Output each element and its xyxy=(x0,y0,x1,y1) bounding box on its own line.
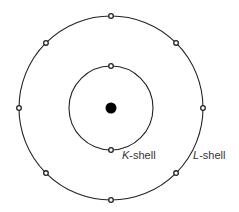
l-shell-electron xyxy=(109,14,114,19)
l-shell-label: L-shell xyxy=(193,149,225,161)
k-shell-suffix: -shell xyxy=(129,149,155,161)
nucleus xyxy=(106,103,117,114)
k-shell-label: K-shell xyxy=(122,149,156,161)
l-shell-electron xyxy=(44,171,49,176)
l-shell-electron xyxy=(201,106,206,111)
atom-diagram: K-shell L-shell xyxy=(0,0,239,212)
l-shell-electron xyxy=(44,41,49,46)
k-shell-electron xyxy=(109,64,114,69)
l-shell-electron xyxy=(174,171,179,176)
l-shell-electron xyxy=(17,106,22,111)
l-shell-electron xyxy=(109,198,114,203)
l-shell-electron xyxy=(174,41,179,46)
k-shell-electron xyxy=(109,148,114,153)
l-shell-suffix: -shell xyxy=(199,149,225,161)
